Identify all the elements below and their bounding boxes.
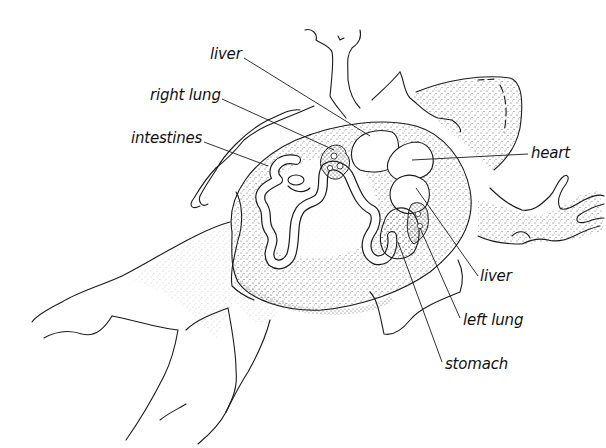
label-heart: heart: [531, 144, 570, 162]
label-left-lung: left lung: [463, 311, 523, 329]
leader-right-lung: [222, 99, 334, 150]
label-right-lung: right lung: [150, 86, 221, 104]
frog-head: [305, 30, 361, 118]
leader-liver-top: [244, 58, 370, 136]
frog-hand: [478, 175, 604, 244]
label-stomach: stomach: [445, 355, 508, 373]
label-intestines: intestines: [131, 129, 202, 147]
frog-dissection-diagram: liver right lung intestines heart liver …: [0, 0, 606, 448]
label-liver-right: liver: [480, 267, 512, 285]
leader-intestines: [204, 142, 268, 166]
diagram-illustration: [0, 0, 606, 448]
label-liver-top: liver: [210, 45, 242, 63]
